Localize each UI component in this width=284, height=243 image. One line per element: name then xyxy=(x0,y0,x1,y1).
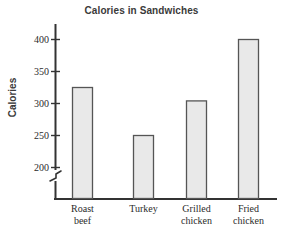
x-category-label-line1: Fried xyxy=(212,203,284,215)
bar-fried-chicken xyxy=(239,40,259,199)
bar-turkey xyxy=(134,136,154,199)
bar-roast-beef xyxy=(73,88,93,199)
x-category-label-fried-chicken: Fried chicken xyxy=(212,203,284,226)
x-category-label-line2: chicken xyxy=(212,215,284,227)
bar-grilled-chicken xyxy=(187,101,207,199)
bar-chart-figure: Calories in Sandwiches Calories 400 350 … xyxy=(0,0,283,243)
x-category-label-line2: beef xyxy=(46,215,120,227)
axis-break-icon xyxy=(50,171,61,181)
